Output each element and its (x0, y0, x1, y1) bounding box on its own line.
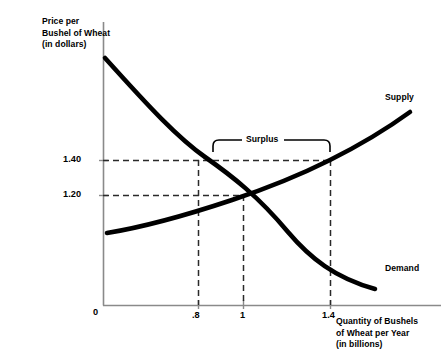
x-axis-title: Quantity of Bushels of Wheat per Year (i… (336, 316, 418, 351)
surplus-annotation-label: Surplus (246, 134, 278, 146)
chart-canvas (0, 0, 441, 363)
supply-curve (107, 112, 410, 233)
demand-curve (105, 58, 375, 289)
surplus-bracket-left (213, 140, 242, 152)
y-axis-title: Price per Bushel of Wheat (in dollars) (42, 16, 110, 51)
x-tick-label-08: .8 (192, 310, 200, 322)
surplus-bracket-right (284, 140, 330, 152)
x-tick-label-14: 1.4 (322, 310, 335, 322)
y-tick-label-140: 1.40 (63, 154, 81, 166)
supply-demand-figure: Price per Bushel of Wheat (in dollars) Q… (0, 0, 441, 363)
y-tick-label-120: 1.20 (63, 189, 81, 201)
origin-label: 0 (93, 307, 98, 319)
supply-curve-label: Supply (385, 92, 414, 104)
x-tick-label-1: 1 (240, 310, 245, 322)
demand-curve-label: Demand (385, 263, 419, 275)
